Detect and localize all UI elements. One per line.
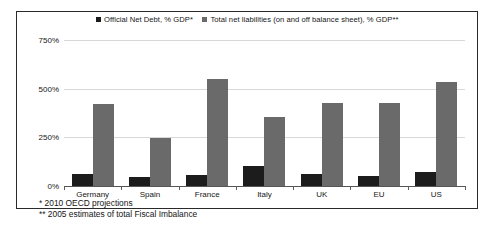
- x-axis-tick: [64, 186, 65, 190]
- x-axis-tick: [293, 186, 294, 190]
- legend-label-total-net-liabilities: Total net liabilities (on and off balanc…: [210, 16, 398, 24]
- legend-swatch-official-net-debt: [96, 17, 101, 22]
- x-axis-category-label: US: [408, 190, 465, 199]
- x-axis-category-label: EU: [350, 190, 407, 199]
- chart-footnotes: * 2010 OECD projections ** 2005 estimate…: [39, 198, 197, 220]
- y-axis-tick-label: 500%: [39, 84, 59, 93]
- x-axis-category-label: UK: [293, 190, 350, 199]
- bar-group: [408, 40, 465, 186]
- bar: [264, 117, 285, 186]
- bar: [322, 103, 343, 186]
- y-axis-tick-label: 0%: [47, 182, 59, 191]
- bar: [301, 174, 322, 186]
- bar: [415, 172, 436, 186]
- x-axis-tick: [350, 186, 351, 190]
- footnote-1: * 2010 OECD projections: [39, 198, 197, 209]
- bar: [93, 104, 114, 186]
- bar: [379, 103, 400, 186]
- x-axis-tick: [465, 186, 466, 190]
- y-axis-tick-label: 250%: [39, 133, 59, 142]
- bar-group: [350, 40, 407, 186]
- bar-groups: [64, 40, 465, 186]
- x-axis-category-label: Italy: [236, 190, 293, 199]
- bar-group: [236, 40, 293, 186]
- bar-group: [179, 40, 236, 186]
- chart-legend: Official Net Debt, % GDP* Total net liab…: [17, 16, 477, 24]
- bar: [129, 177, 150, 186]
- plot-area: 0%250%500%750%: [64, 40, 465, 186]
- legend-label-official-net-debt: Official Net Debt, % GDP*: [104, 16, 193, 24]
- bar: [358, 176, 379, 186]
- legend-entry-official-net-debt: Official Net Debt, % GDP*: [96, 16, 193, 24]
- x-axis-tick: [179, 186, 180, 190]
- bar-group: [121, 40, 178, 186]
- footnote-2: ** 2005 estimates of total Fiscal Imbala…: [39, 209, 197, 220]
- bar: [243, 166, 264, 186]
- x-axis-tick: [408, 186, 409, 190]
- bar: [207, 79, 228, 186]
- bar-group: [64, 40, 121, 186]
- bar: [436, 82, 457, 186]
- chart-frame: Official Net Debt, % GDP* Total net liab…: [16, 11, 478, 209]
- bar: [72, 174, 93, 186]
- bar: [150, 138, 171, 186]
- legend-entry-total-net-liabilities: Total net liabilities (on and off balanc…: [202, 16, 399, 24]
- x-axis-tick: [121, 186, 122, 190]
- x-axis-tick: [236, 186, 237, 190]
- y-axis-tick-label: 750%: [39, 36, 59, 45]
- legend-swatch-total-net-liabilities: [202, 17, 207, 22]
- bar-group: [293, 40, 350, 186]
- bar: [186, 175, 207, 186]
